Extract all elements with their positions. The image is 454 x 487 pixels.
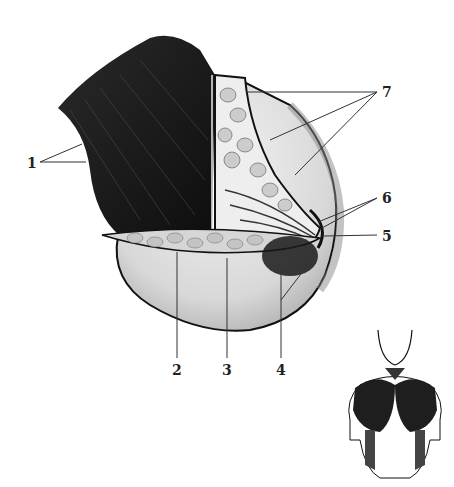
label-7: 7: [382, 85, 392, 99]
label-5: 5: [382, 229, 392, 243]
label-1: 1: [27, 156, 37, 170]
label-3: 3: [222, 363, 232, 377]
label-2: 2: [172, 363, 182, 377]
pectoral-muscle: [58, 36, 215, 236]
inset-torso: [349, 330, 442, 478]
label-4: 4: [276, 363, 286, 377]
label-6: 6: [382, 191, 392, 205]
